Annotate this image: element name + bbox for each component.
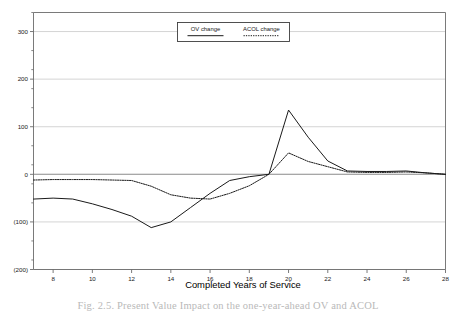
legend-label-1: ACOL change bbox=[243, 26, 281, 32]
x-axis-title: Completed Years of Service bbox=[185, 279, 301, 290]
figure-caption: Fig. 2.5. Present Value Impact on the on… bbox=[0, 300, 456, 312]
y-tick-label: (200) bbox=[14, 266, 28, 273]
x-tick-label: 28 bbox=[442, 275, 449, 282]
legend-label-0: OV change bbox=[191, 26, 221, 32]
chart-legend[interactable]: OV changeACOL change bbox=[178, 23, 290, 42]
y-tick-label: 0 bbox=[25, 171, 29, 178]
x-tick-label: 26 bbox=[403, 275, 410, 282]
x-tick-label: 12 bbox=[128, 275, 135, 282]
x-tick-label: 24 bbox=[364, 275, 371, 282]
series-line-0 bbox=[34, 110, 446, 228]
x-tick-label: 8 bbox=[51, 275, 55, 282]
data-series-group bbox=[34, 110, 446, 228]
x-tick-label: 22 bbox=[324, 275, 331, 282]
gridlines-group bbox=[34, 32, 446, 270]
x-tick-label: 14 bbox=[167, 275, 174, 282]
y-axis-ticks: 3002001000(100)(200) bbox=[14, 13, 34, 273]
y-tick-label: 100 bbox=[18, 123, 29, 130]
y-tick-label: 300 bbox=[18, 28, 29, 35]
y-tick-label: 200 bbox=[18, 75, 29, 82]
x-tick-label: 10 bbox=[89, 275, 96, 282]
plot-frame bbox=[34, 13, 446, 270]
series-line-1 bbox=[34, 153, 446, 199]
y-tick-label: (100) bbox=[14, 218, 28, 225]
